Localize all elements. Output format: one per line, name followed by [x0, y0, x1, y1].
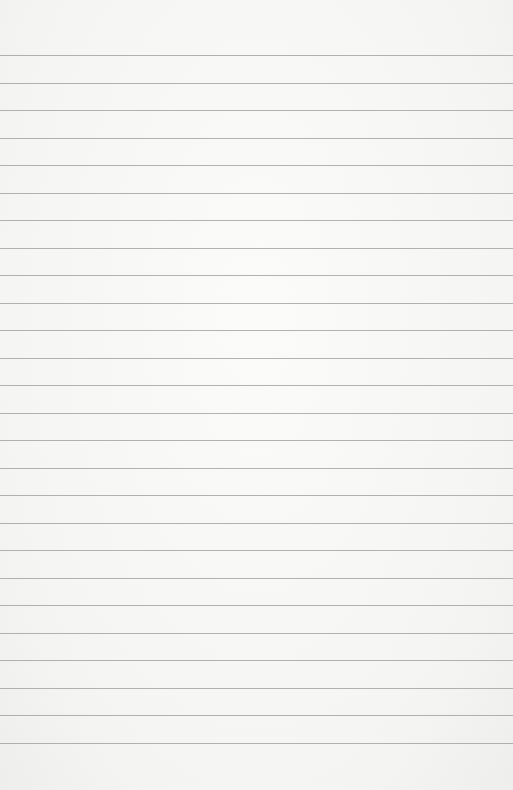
ruled-line — [0, 303, 513, 304]
ruled-line — [0, 440, 513, 441]
ruled-line — [0, 633, 513, 634]
ruled-line — [0, 330, 513, 331]
ruled-line — [0, 165, 513, 166]
ruled-line — [0, 605, 513, 606]
ruled-line — [0, 248, 513, 249]
ruled-line — [0, 578, 513, 579]
ruled-line — [0, 468, 513, 469]
ruled-line — [0, 550, 513, 551]
ruled-line — [0, 495, 513, 496]
ruled-line — [0, 688, 513, 689]
ruled-line — [0, 138, 513, 139]
ruled-line — [0, 193, 513, 194]
ruled-line — [0, 83, 513, 84]
ruled-line — [0, 55, 513, 56]
ruled-line — [0, 523, 513, 524]
ruled-line — [0, 413, 513, 414]
ruled-line — [0, 358, 513, 359]
ruled-line — [0, 110, 513, 111]
ruled-line — [0, 660, 513, 661]
ruled-line — [0, 385, 513, 386]
ruled-line — [0, 275, 513, 276]
ruled-line — [0, 743, 513, 744]
lined-paper — [0, 0, 513, 790]
ruled-line — [0, 220, 513, 221]
ruled-line — [0, 715, 513, 716]
